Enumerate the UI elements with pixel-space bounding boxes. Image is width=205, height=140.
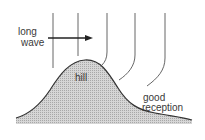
- arrow-head-icon: [85, 35, 93, 41]
- label-hill: hill: [75, 73, 87, 83]
- wave-line-3: [102, 13, 107, 65]
- label-reception: reception: [142, 103, 183, 113]
- wave-line-5: [147, 13, 165, 86]
- diagram-canvas: [0, 0, 205, 140]
- long-wave-diffraction-diagram: long wave hill good reception: [0, 0, 205, 140]
- label-long: long: [18, 27, 37, 37]
- label-wave: wave: [21, 38, 44, 48]
- wave-line-4: [119, 13, 135, 80]
